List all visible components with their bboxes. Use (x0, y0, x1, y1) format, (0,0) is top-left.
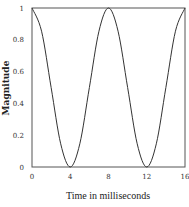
x-tick-label: 4 (68, 173, 73, 181)
y-tick-label: 0.8 (13, 36, 24, 44)
y-tick-label: 0.6 (13, 68, 25, 76)
x-tick-label: 16 (181, 173, 189, 181)
x-tick-label: 8 (106, 173, 110, 181)
chart: 00.20.40.60.81 0481216 Time in milliseco… (0, 0, 189, 207)
y-tick-label: 0.4 (13, 100, 25, 108)
magnitude-line (32, 8, 185, 167)
y-tick-label: 0.2 (13, 132, 24, 140)
x-tick-label: 12 (142, 173, 151, 181)
y-tick-label: 1 (20, 5, 24, 13)
x-axis-label: Time in milliseconds (66, 190, 150, 201)
y-axis-label: Magnitude (1, 60, 11, 115)
x-tick-label: 0 (30, 173, 34, 181)
plot-frame (32, 8, 185, 167)
y-tick-label: 0 (20, 164, 24, 172)
